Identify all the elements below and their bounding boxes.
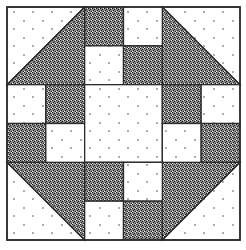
square-patch-dark	[85, 162, 124, 201]
square-patch-dark	[46, 85, 85, 124]
square-patch-dark	[201, 124, 240, 163]
square-patch-light	[162, 124, 201, 163]
square-patch-dark	[124, 46, 163, 85]
square-patch-light	[201, 85, 240, 124]
square-patch-light	[124, 7, 163, 46]
square-patch-light	[85, 201, 124, 240]
square-patch-light	[85, 46, 124, 85]
quilt-block	[0, 0, 246, 250]
square-patch-light	[46, 124, 85, 163]
square-patch-light	[85, 85, 163, 163]
square-patch-dark	[162, 85, 201, 124]
square-patch-dark	[85, 7, 124, 46]
square-patch-light	[7, 85, 46, 124]
square-patch-dark	[124, 201, 163, 240]
quilt-pieces	[7, 7, 240, 240]
square-patch-dark	[7, 124, 46, 163]
square-patch-light	[124, 162, 163, 201]
